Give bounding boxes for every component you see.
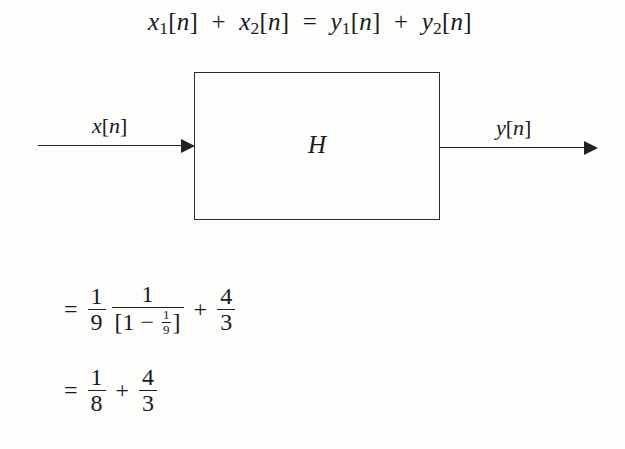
output-signal-label: y[n] <box>496 115 531 141</box>
fraction-one-ninth: 1 9 <box>88 284 106 335</box>
output-label-base: y <box>496 115 506 140</box>
denominator: 3 <box>217 309 235 335</box>
x2-term: x2[n] <box>239 8 289 35</box>
derivation-line-1: = 1 9 1 [1 − 1 9 ] + 4 3 <box>64 282 238 336</box>
y2-term: y2[n] <box>422 8 472 35</box>
output-arrow-line <box>440 147 586 148</box>
x2-base: x <box>239 8 250 35</box>
bracket-open-expr: [1 − <box>115 310 161 335</box>
system-label: H <box>195 131 439 159</box>
numerator: 1 <box>139 282 157 307</box>
input-label-base: x <box>92 113 102 138</box>
superposition-equation: x1[n] + x2[n] = y1[n] + y2[n] <box>148 8 472 39</box>
derivation-line-2: = 1 8 + 4 3 <box>64 365 160 416</box>
y2-sub: 2 <box>433 18 442 38</box>
fraction-one-eighth: 1 8 <box>88 365 106 416</box>
system-block: H <box>194 72 440 220</box>
inner-fraction: 1 9 <box>162 308 171 336</box>
numerator: 1 <box>88 284 106 309</box>
denominator: 8 <box>88 390 106 416</box>
plus-sign: + <box>116 377 130 404</box>
plus-sign: + <box>194 296 208 323</box>
denominator: 3 <box>139 390 157 416</box>
inner-numerator: 1 <box>163 308 170 322</box>
plus-sign: + <box>211 8 225 35</box>
equals-sign: = <box>303 8 317 35</box>
x1-sub: 1 <box>159 18 168 38</box>
x1-term: x1[n] <box>148 8 198 35</box>
y1-base: y <box>330 8 341 35</box>
y1-term: y1[n] <box>330 8 380 35</box>
equals-sign: = <box>64 296 78 323</box>
inner-denominator: 9 <box>162 322 171 337</box>
input-arrowhead-icon <box>181 139 195 153</box>
equals-sign: = <box>64 377 78 404</box>
bracket-close: ] <box>173 310 181 335</box>
numerator: 4 <box>217 284 235 309</box>
numerator: 4 <box>139 365 157 390</box>
input-signal-label: x[n] <box>92 113 127 139</box>
fraction-four-thirds: 4 3 <box>217 284 235 335</box>
x1-base: x <box>148 8 159 35</box>
denominator: 9 <box>88 309 106 335</box>
plus-sign: + <box>394 8 408 35</box>
fraction-geometric-sum: 1 [1 − 1 9 ] <box>112 282 184 336</box>
fraction-four-thirds: 4 3 <box>139 365 157 416</box>
output-arrowhead-icon <box>584 141 598 155</box>
input-arrow-line <box>38 145 183 146</box>
numerator: 1 <box>88 365 106 390</box>
denominator: [1 − 1 9 ] <box>112 307 184 336</box>
y1-sub: 1 <box>342 18 351 38</box>
y2-base: y <box>422 8 433 35</box>
